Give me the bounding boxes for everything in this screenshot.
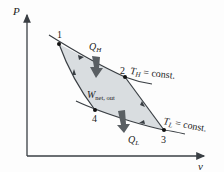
heat-in-label: QH xyxy=(89,41,102,54)
point-label-2: 2 xyxy=(120,65,125,76)
isotherm-high-label: TH = const. xyxy=(130,65,176,83)
point-label-3: 3 xyxy=(161,134,166,145)
cycle-area xyxy=(59,44,164,130)
point-label-4: 4 xyxy=(92,113,97,124)
isotherm-low-label: TL = const. xyxy=(162,115,207,135)
state-point-1 xyxy=(57,42,61,46)
x-axis-label: v xyxy=(198,160,203,172)
y-axis-label: P xyxy=(12,5,20,17)
state-point-3 xyxy=(162,128,166,132)
diagram-canvas: P v 1 2 3 4 TH = const. TL = const. QH Q… xyxy=(0,0,224,172)
point-label-1: 1 xyxy=(57,29,62,40)
state-point-4 xyxy=(93,108,97,112)
carnot-pv-diagram: P v 1 2 3 4 TH = const. TL = const. QH Q… xyxy=(0,0,224,172)
heat-out-label: QL xyxy=(128,134,139,147)
